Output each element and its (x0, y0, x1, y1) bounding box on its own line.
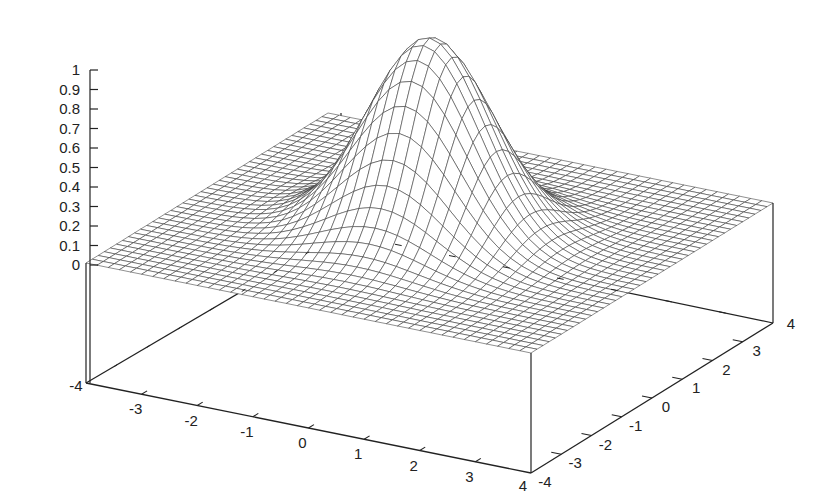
z-tick-label: 1 (72, 61, 80, 78)
x-tick (197, 402, 202, 405)
y-tick (702, 358, 712, 360)
x-tick-label: -3 (129, 400, 142, 417)
x-tick-label: 4 (519, 477, 527, 494)
plot-canvas: 00.10.20.30.40.50.60.70.80.91-4-3-2-1012… (0, 0, 832, 498)
z-tick-label: 0.7 (59, 120, 80, 137)
y-tick-label: 0 (662, 398, 670, 415)
z-tick-label: 0 (72, 256, 80, 273)
x-tick (253, 413, 258, 416)
z-tick-label: 0.9 (59, 81, 80, 98)
x-tick-label: -1 (240, 423, 253, 440)
surface-mesh (86, 38, 773, 353)
y-tick-label: 1 (692, 379, 700, 396)
x-tick-label: 1 (354, 445, 362, 462)
y-tick (612, 415, 622, 417)
y-tick (733, 340, 743, 342)
x-tick-label: -2 (185, 412, 198, 429)
y-tick (642, 396, 652, 398)
y-tick-label: 3 (753, 342, 761, 359)
y-tick (581, 433, 591, 435)
z-tick-label: 0.8 (59, 100, 80, 117)
y-tick-label: -4 (538, 473, 551, 490)
y-tick-label: -2 (599, 436, 612, 453)
x-tick-label: -4 (69, 377, 82, 394)
x-tick-label: 3 (465, 468, 473, 485)
surface-plot: 00.10.20.30.40.50.60.70.80.91-4-3-2-1012… (0, 0, 832, 498)
y-tick-label: -3 (569, 454, 582, 471)
y-tick (672, 377, 682, 379)
x-tick-label: 0 (298, 434, 306, 451)
z-tick-label: 0.3 (59, 198, 80, 215)
x-tick-label: 2 (410, 457, 418, 474)
x-tick (364, 436, 369, 439)
z-tick-label: 0.6 (59, 139, 80, 156)
y-tick (551, 452, 561, 454)
z-tick-label: 0.5 (59, 159, 80, 176)
y-tick-label: 2 (722, 361, 730, 378)
y-tick-label: 4 (787, 315, 795, 332)
x-tick (475, 458, 480, 461)
x-tick (142, 391, 147, 394)
z-tick-label: 0.2 (59, 217, 80, 234)
x-tick (309, 425, 314, 428)
back-x-tick (719, 312, 726, 313)
x-tick (420, 447, 425, 450)
z-tick-label: 0.1 (59, 237, 80, 254)
back-x-tick (665, 301, 672, 302)
y-tick-label: -1 (629, 417, 642, 434)
z-tick-label: 0.4 (59, 178, 80, 195)
